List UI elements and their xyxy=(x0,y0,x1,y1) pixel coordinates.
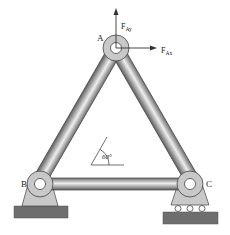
truss-diagram: A B C FAy FAx 60° xyxy=(0,0,230,235)
force-fax-label: FAx xyxy=(161,46,172,56)
member-ab xyxy=(31,45,122,188)
angle-label: 60° xyxy=(102,153,112,161)
member-ac xyxy=(110,45,201,188)
force-fay-label: FAy xyxy=(121,22,132,32)
ground-c xyxy=(163,212,218,224)
joint-b xyxy=(27,171,53,197)
joint-label-a: A xyxy=(97,33,104,43)
joint-c xyxy=(177,171,203,197)
joint-label-b: B xyxy=(21,179,27,189)
member-bc xyxy=(40,178,190,190)
ground-b xyxy=(14,206,68,218)
joint-label-c: C xyxy=(206,179,212,189)
rollers-c xyxy=(175,206,205,212)
